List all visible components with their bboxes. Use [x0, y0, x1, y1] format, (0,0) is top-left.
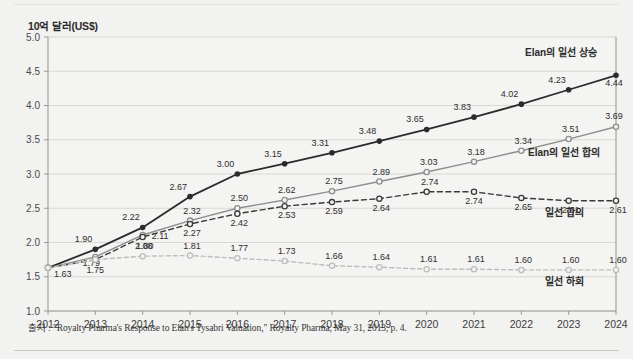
data-point	[566, 87, 572, 93]
data-point	[613, 267, 618, 272]
data-label: 1.77	[231, 243, 249, 253]
data-point	[424, 189, 429, 194]
data-point	[471, 267, 476, 272]
data-label: 2.75	[325, 176, 343, 186]
y-tick-label: 3.0	[26, 169, 40, 180]
data-point	[282, 258, 287, 263]
y-tick-label: 3.5	[26, 134, 40, 145]
series-label-4: 일선 하회	[545, 275, 584, 287]
data-point	[282, 161, 288, 167]
x-tick-label: 2022	[510, 318, 534, 330]
data-point	[519, 195, 524, 200]
data-point	[329, 199, 334, 204]
data-point	[187, 221, 192, 226]
data-point	[424, 127, 430, 133]
data-point	[424, 169, 429, 174]
data-point	[566, 136, 571, 141]
data-point	[377, 138, 383, 144]
data-label: 2.42	[231, 218, 249, 228]
bottom-divider	[14, 350, 619, 351]
data-point	[93, 257, 98, 262]
data-point	[140, 234, 145, 239]
line-chart-svg: 1.01.52.02.53.03.54.04.55.02012201320142…	[0, 0, 633, 359]
data-label: 1.90	[75, 234, 93, 244]
data-point	[282, 204, 287, 209]
data-point	[471, 189, 476, 194]
data-label: 2.62	[278, 185, 296, 195]
data-point	[282, 197, 287, 202]
data-point	[519, 267, 524, 272]
x-tick-label: 2021	[462, 318, 486, 330]
data-label: 2.53	[278, 210, 296, 220]
chart-page: 10억 달러(US$) 1.01.52.02.53.03.54.04.55.02…	[0, 0, 633, 359]
data-label: 3.65	[406, 114, 424, 124]
data-point	[329, 150, 335, 156]
data-label: 2.74	[465, 196, 483, 206]
data-label: 1.60	[562, 255, 580, 265]
data-label: 3.00	[217, 159, 235, 169]
data-point	[235, 171, 241, 177]
data-label: 1.80	[136, 241, 154, 251]
data-point	[471, 114, 477, 120]
data-label: 2.74	[421, 177, 439, 187]
data-point	[613, 198, 618, 203]
data-point	[566, 198, 571, 203]
x-tick-label: 2024	[604, 318, 628, 330]
data-point	[45, 265, 50, 270]
data-label: 4.23	[548, 75, 566, 85]
x-tick-label: 2023	[557, 318, 581, 330]
data-label: 3.83	[453, 102, 471, 112]
data-point	[187, 253, 192, 258]
data-point	[519, 148, 524, 153]
data-label: 3.18	[467, 147, 485, 157]
series-label-2: Elan의 일선 합의	[528, 146, 600, 158]
x-tick-label: 2020	[415, 318, 439, 330]
data-point	[613, 124, 618, 129]
data-point	[140, 254, 145, 259]
chart-figure: 1.01.52.02.53.03.54.04.55.02012201320142…	[0, 0, 633, 359]
data-label: 2.59	[325, 206, 343, 216]
data-label: 2.27	[183, 228, 201, 238]
data-point	[140, 225, 146, 231]
data-label: 3.15	[264, 149, 282, 159]
y-tick-label: 4.0	[26, 100, 40, 111]
data-point	[187, 194, 193, 200]
y-tick-label: 4.5	[26, 66, 40, 77]
data-label: 2.61	[609, 205, 627, 215]
data-point	[235, 256, 240, 261]
data-label: 4.44	[605, 78, 623, 88]
y-tick-label: 1.0	[26, 306, 40, 317]
data-point	[329, 189, 334, 194]
data-label: 2.32	[183, 206, 201, 216]
source-note: 출처 : "Royalty Pharma's Response to Elan'…	[28, 320, 407, 334]
data-label: 1.61	[467, 254, 485, 264]
data-point	[566, 267, 571, 272]
data-label: 4.02	[501, 89, 519, 99]
data-point	[424, 267, 429, 272]
data-label: 3.48	[359, 126, 377, 136]
y-tick-label: 1.5	[26, 271, 40, 282]
data-point	[93, 247, 99, 253]
data-label: 1.61	[420, 254, 438, 264]
data-label: 3.03	[420, 157, 438, 167]
data-label: 3.31	[311, 138, 329, 148]
data-label: 1.73	[278, 246, 296, 256]
data-label: 2.67	[169, 182, 187, 192]
data-point	[235, 211, 240, 216]
y-tick-label: 2.5	[26, 203, 40, 214]
data-label: 2.65	[515, 202, 533, 212]
data-label: 2.64	[373, 203, 391, 213]
data-label: 1.75	[87, 265, 105, 275]
data-point	[377, 179, 382, 184]
data-point	[471, 159, 476, 164]
data-point	[519, 101, 525, 107]
data-label: 1.66	[325, 251, 343, 261]
data-label: 3.51	[562, 124, 580, 134]
data-label: 3.69	[605, 111, 623, 121]
data-label: 2.89	[373, 167, 391, 177]
series-label-3: 일선 합의	[545, 206, 584, 218]
data-label: 1.64	[373, 252, 391, 262]
data-label: 1.81	[183, 241, 201, 251]
data-label: 1.63	[54, 269, 72, 279]
y-tick-label: 2.0	[26, 237, 40, 248]
